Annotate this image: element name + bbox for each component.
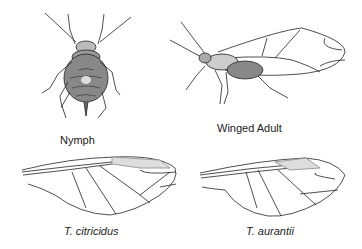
- wing-aurantii-drawing: [200, 158, 345, 216]
- wing-citricidus-drawing: [22, 157, 176, 215]
- aphid-illustration-figure: Nymph Winged Adult T. citricidus T. aura…: [0, 0, 362, 249]
- citricidus-label: T. citricidus: [64, 225, 119, 237]
- winged-adult-label: Winged Adult: [217, 122, 282, 134]
- aurantii-label: T. aurantii: [246, 225, 294, 237]
- nymph-drawing: [42, 13, 131, 118]
- nymph-label: Nymph: [60, 134, 95, 146]
- winged-adult-drawing: [170, 22, 345, 104]
